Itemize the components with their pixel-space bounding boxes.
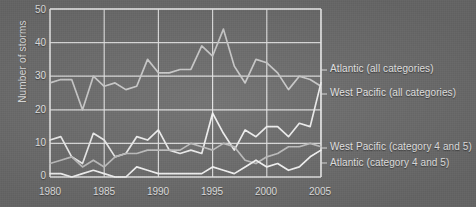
series-label-atlantic-all: Atlantic (all categories) bbox=[330, 63, 434, 74]
series-label-westpac-45: West Pacific (category 4 and 5) bbox=[330, 141, 472, 152]
series-label-atlantic-45: Atlantic (category 4 and 5) bbox=[330, 157, 449, 168]
series-label-westpac-all: West Pacific (all categories) bbox=[330, 87, 456, 98]
series-line-west-pacific-all-categories bbox=[50, 29, 321, 110]
plot-area bbox=[0, 0, 476, 207]
series-line-atlantic-category-4-and-5 bbox=[50, 150, 321, 177]
chart-figure: Number of storms 50 40 30 20 10 0 1980 1… bbox=[0, 0, 476, 207]
series-line-west-pacific-category-4-and-5 bbox=[50, 143, 321, 167]
